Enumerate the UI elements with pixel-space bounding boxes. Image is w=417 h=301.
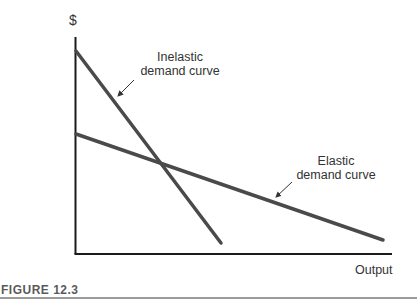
figure-caption: FIGURE 12.3 bbox=[1, 283, 79, 297]
x-axis-label: Output bbox=[355, 263, 393, 277]
inelastic-demand-curve bbox=[76, 51, 221, 243]
inelastic-annotation: Inelastic demand curve bbox=[140, 50, 220, 78]
elastic-arrow bbox=[276, 182, 292, 197]
elastic-annotation-line2: demand curve bbox=[296, 168, 376, 182]
inelastic-annotation-line2: demand curve bbox=[140, 64, 220, 78]
inelastic-annotation-line1: Inelastic bbox=[140, 50, 220, 64]
demand-curves-chart bbox=[0, 0, 417, 301]
inelastic-arrow bbox=[118, 80, 134, 96]
elastic-annotation: Elastic demand curve bbox=[296, 154, 376, 182]
elastic-annotation-line1: Elastic bbox=[296, 154, 376, 168]
elastic-demand-curve bbox=[76, 134, 383, 240]
y-axis-label: $ bbox=[69, 13, 77, 27]
